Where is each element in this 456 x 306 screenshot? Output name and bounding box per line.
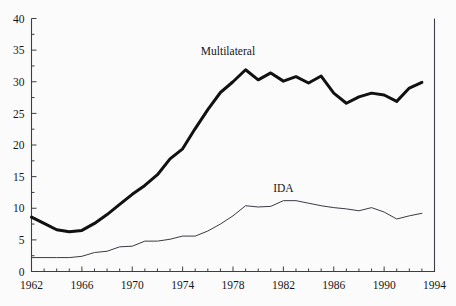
x-tick-label: 1970	[121, 279, 144, 291]
y-tick-label: 10	[13, 202, 25, 214]
y-tick-label: 25	[13, 108, 25, 120]
y-tick-label: 0	[19, 266, 25, 278]
x-tick-label: 1990	[373, 279, 396, 291]
y-tick-label: 20	[13, 139, 25, 151]
y-tick-label: 5	[19, 234, 25, 246]
y-tick-label: 40	[13, 13, 25, 25]
x-axis-tick-labels: 196219661970197419781982198619901994	[20, 279, 446, 291]
x-tick-label: 1994	[423, 279, 446, 291]
y-tick-label: 35	[13, 44, 25, 56]
y-tick-label: 15	[13, 171, 25, 183]
y-tick-label: 30	[13, 76, 25, 88]
x-tick-label: 1962	[20, 279, 43, 291]
x-tick-label: 1978	[222, 279, 245, 291]
series-label-multilateral: Multilateral	[201, 45, 255, 57]
chart-container: 196219661970197419781982198619901994 051…	[0, 0, 456, 306]
series-label-ida: IDA	[273, 182, 294, 194]
x-tick-label: 1966	[70, 279, 93, 291]
x-tick-label: 1986	[322, 279, 345, 291]
line-chart: 196219661970197419781982198619901994 051…	[0, 0, 456, 306]
x-tick-label: 1974	[171, 279, 194, 291]
x-tick-label: 1982	[272, 279, 295, 291]
